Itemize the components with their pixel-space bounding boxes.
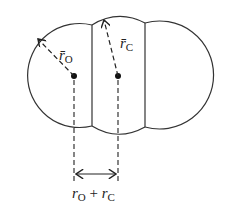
oxygen-atom-right — [145, 21, 214, 129]
oxygen-radius-label: r̄O — [59, 47, 73, 65]
carbon-radius-label: r̄C — [120, 35, 133, 53]
bond-length-label: rO + rC — [72, 185, 115, 203]
co2-diagram: r̄O r̄C rO + rC — [0, 0, 232, 210]
oxygen-atom-left — [28, 24, 92, 128]
carbon-radius-arrow — [104, 20, 118, 76]
